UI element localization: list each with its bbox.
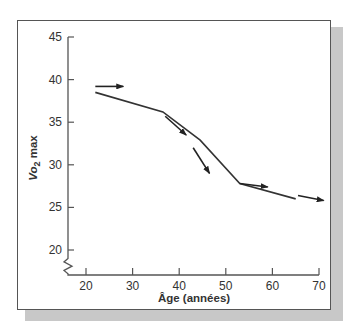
y-tick-label: 35 (49, 115, 63, 129)
x-tick-label: 70 (312, 279, 326, 293)
x-tick-label: 40 (173, 279, 187, 293)
axis-lines (64, 37, 319, 275)
y-tick-label: 20 (49, 243, 63, 257)
series-line (95, 92, 295, 199)
y-tick-label: 45 (49, 30, 63, 44)
data-series (95, 92, 295, 199)
x-tick-label: 60 (266, 279, 280, 293)
arrow-icon (298, 195, 324, 200)
y-axis-title: Vo2 max (27, 135, 42, 181)
x-tick-label: 30 (126, 279, 140, 293)
arrow-icon (193, 148, 209, 174)
x-tick-label: 20 (79, 279, 93, 293)
arrow-icon (165, 116, 186, 135)
axes: 202530354045203040506070 (49, 30, 326, 293)
x-axis-title: Âge (années) (158, 292, 230, 304)
y-tick-label: 25 (49, 200, 63, 214)
line-chart: 202530354045203040506070 Âge (années) Vo… (0, 0, 356, 329)
y-tick-label: 30 (49, 158, 63, 172)
annotation-arrows (95, 86, 323, 200)
y-tick-label: 40 (49, 73, 63, 87)
x-tick-label: 50 (219, 279, 233, 293)
